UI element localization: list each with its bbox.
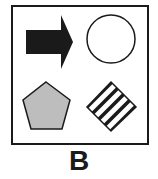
figure-label: B [0, 146, 158, 176]
pentagon-icon [23, 82, 70, 129]
circle-icon [87, 15, 135, 63]
arrow-right-icon [26, 15, 73, 69]
striped-diamond-icon [80, 74, 144, 138]
